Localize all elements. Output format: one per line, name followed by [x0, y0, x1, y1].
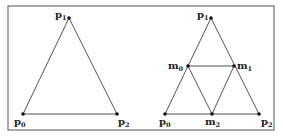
- right-label-p1: p1: [197, 9, 209, 22]
- subdivision-diagram: p0p1p2 p0p1p2m0m1m2: [0, 0, 283, 138]
- right-label-m0: m0: [168, 60, 184, 73]
- left-edge-p0-p1: [23, 18, 69, 114]
- left-point-p1: [67, 16, 71, 20]
- right-edge-m1-m2: [212, 66, 234, 114]
- left-edge-p1-p2: [69, 18, 117, 114]
- right-label-m1: m1: [237, 60, 252, 73]
- left-label-p2: p2: [118, 116, 130, 129]
- right-label-p2: p2: [261, 116, 273, 129]
- figure-frame: [8, 6, 274, 130]
- right-edge-m2-m0: [188, 66, 212, 114]
- left-label-p1: p1: [55, 9, 67, 22]
- left-label-p0: p0: [14, 116, 26, 129]
- subdivided-triangle: p0p1p2m0m1m2: [159, 9, 273, 129]
- right-point-m0: [186, 64, 190, 68]
- right-point-m1: [232, 64, 236, 68]
- right-point-p1: [209, 16, 213, 20]
- original-triangle: p0p1p2: [14, 9, 130, 129]
- right-label-p0: p0: [159, 116, 171, 129]
- left-point-p0: [21, 112, 25, 116]
- right-label-m2: m2: [205, 116, 220, 129]
